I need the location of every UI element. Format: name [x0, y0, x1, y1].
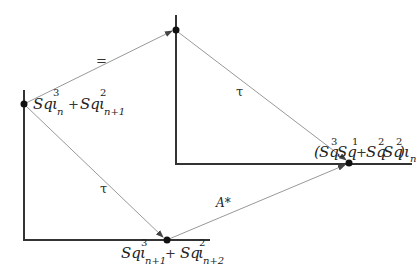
svg-text:Sq: Sq [80, 95, 100, 113]
node-dot-bottom [164, 237, 171, 244]
svg-text:ι: ι [404, 143, 410, 161]
svg-text:n: n [57, 106, 63, 117]
node-label-left: Sq 3 ι n + Sq 2 ι n+1 [33, 87, 125, 117]
label-equals: = [96, 53, 107, 68]
svg-text:Sq: Sq [33, 95, 53, 113]
label-tau-left: τ [100, 181, 107, 196]
node-label-bottom: Sq 3 ι n+1 + Sq 2 ι n+2 [121, 237, 224, 266]
svg-text:n: n [410, 153, 416, 164]
node-dot-top [173, 27, 180, 34]
svg-text:Sq: Sq [180, 244, 200, 262]
arrow-tau-right [178, 32, 346, 160]
arrow-a-star [169, 165, 345, 239]
svg-text:n+1: n+1 [104, 106, 125, 117]
svg-text:+: + [165, 246, 176, 261]
svg-text:n+1: n+1 [145, 255, 166, 266]
label-a-star: A* [215, 196, 231, 210]
svg-text:n+2: n+2 [203, 255, 224, 266]
node-dot-left [21, 101, 28, 108]
diagram-canvas: = τ τ A* Sq 3 ι n + Sq 2 ι n+1 Sq 3 ι n+… [0, 0, 419, 273]
node-label-right: ( Sq 3 Sq 1 + Sq 2 Sq 2 ) ι n [314, 136, 416, 164]
label-tau-right: τ [236, 84, 243, 99]
svg-text:+: + [68, 97, 79, 112]
svg-text:Sq: Sq [121, 244, 141, 262]
arrow-tau-left [26, 106, 163, 237]
